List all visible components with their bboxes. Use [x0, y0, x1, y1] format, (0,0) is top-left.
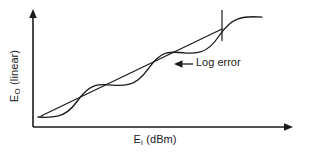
- x-axis-label-unit: (dBm): [143, 133, 177, 145]
- y-axis-label-symbol: E: [8, 95, 20, 102]
- log-error-callout-arrow: [174, 60, 193, 67]
- x-axis: [33, 123, 293, 131]
- y-axis: [29, 9, 37, 127]
- y-axis-label-unit: (linear): [8, 50, 20, 88]
- callout-arrow-head-icon: [174, 60, 183, 67]
- x-axis-label-subscript: i: [141, 138, 143, 147]
- x-axis-label: Ei (dBm): [0, 134, 310, 145]
- x-axis-arrow-icon: [284, 123, 293, 131]
- ideal-log-line-segment: [41, 29, 222, 116]
- y-axis-label: EO (linear): [9, 21, 20, 131]
- x-axis-label-symbol: E: [133, 133, 140, 145]
- ideal-log-line: [41, 10, 222, 116]
- log-error-annotation-text: Log error: [196, 57, 241, 68]
- log-error-figure: Ei (dBm) EO (linear) Log error: [0, 0, 310, 160]
- y-axis-arrow-icon: [29, 9, 37, 18]
- y-axis-label-subscript: O: [13, 88, 22, 95]
